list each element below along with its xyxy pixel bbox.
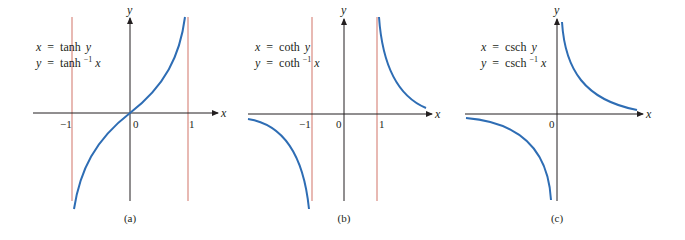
curve-arcsch-negative (466, 118, 551, 200)
equation-block: x = tanh y y = tanh −1 x (35, 40, 101, 70)
tick-label: 1 (189, 118, 195, 130)
curve-arcoth-positive (379, 17, 426, 108)
panel-c: x y 0 x = csch y y = csch −1 x (c) (465, 3, 652, 225)
panel-label: (c) (551, 212, 564, 225)
equation-1: x = csch y (480, 40, 537, 54)
equation-block: x = csch y y = csch −1 x (480, 40, 547, 70)
y-axis-label: y (553, 3, 560, 17)
hyperbolic-inverse-figure: x y −1 0 1 x = tanh y y = tanh −1 x (a) (0, 0, 685, 240)
x-axis-label: x (434, 107, 441, 121)
x-axis-label: x (645, 107, 652, 121)
tick-label: −1 (60, 118, 72, 130)
curve-arcsch-positive (562, 22, 637, 110)
tick-label: 0 (133, 118, 139, 130)
panel-b: x y −1 0 1 x = coth y y = coth −1 x (b) (248, 3, 441, 225)
panel-label: (b) (338, 212, 351, 225)
y-axis-label: y (126, 3, 133, 17)
panel-a: x y −1 0 1 x = tanh y y = tanh −1 x (a) (33, 3, 227, 225)
tick-label: 0 (549, 118, 555, 130)
equation-1: x = coth y (254, 40, 311, 54)
y-axis-label: y (340, 3, 347, 17)
curve-arcoth-negative (248, 119, 309, 209)
tick-label: 0 (336, 118, 342, 130)
x-axis-label: x (220, 106, 227, 120)
equation-1: x = tanh y (35, 40, 92, 54)
equation-block: x = coth y y = coth −1 x (254, 40, 320, 70)
tick-label: 1 (379, 118, 385, 130)
tick-label: −1 (299, 118, 311, 130)
panel-label: (a) (124, 212, 137, 225)
